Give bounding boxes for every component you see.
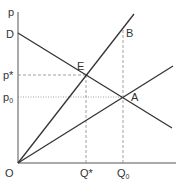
point-a-label: A — [131, 91, 139, 103]
steep-ray — [18, 14, 134, 163]
point-b-label: B — [126, 27, 133, 39]
point-e-label: E — [77, 60, 84, 72]
origin-label: O — [5, 167, 14, 179]
p-star-label: p* — [3, 69, 14, 81]
q-star-label: Q* — [80, 167, 94, 179]
point-d-label: D — [6, 28, 14, 40]
p-zero-label: p0 — [3, 91, 13, 104]
q-zero-label: Q0 — [117, 167, 130, 180]
y-axis-label: p — [8, 6, 14, 18]
economics-diagram: p D E B A p* p0 O Q* Q0 — [0, 0, 178, 187]
